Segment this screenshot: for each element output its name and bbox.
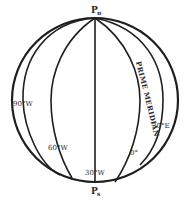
meridian-0 bbox=[95, 18, 140, 182]
north-pole-label: P n bbox=[91, 5, 102, 16]
label-30w: 30°W bbox=[85, 169, 105, 177]
svg-text:n: n bbox=[97, 9, 102, 16]
label-60w: 60°W bbox=[48, 144, 68, 152]
meridian-60w bbox=[51, 18, 95, 178]
label-0: 0° bbox=[130, 149, 138, 157]
svg-text:s: s bbox=[97, 190, 101, 197]
globe-diagram: P n P s 90°W 60°W 30°W 0° 30°E PRIME MER… bbox=[0, 0, 189, 206]
south-pole-label: P s bbox=[91, 186, 101, 197]
label-90w: 90°W bbox=[13, 100, 33, 108]
